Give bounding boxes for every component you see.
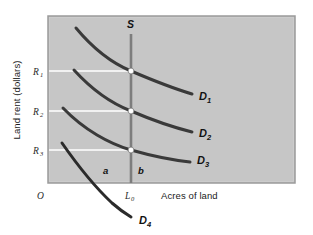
y-tick-label-r2: R bbox=[32, 107, 39, 117]
demand-curve-label-d2-subscript: 2 bbox=[206, 133, 212, 142]
y-axis-title: Land rent (dollars) bbox=[11, 61, 22, 140]
demand-curve-label-d4: D bbox=[139, 214, 147, 226]
area-label-a: a bbox=[103, 165, 108, 176]
y-tick-label-r2-subscript: 2 bbox=[40, 111, 44, 118]
x-tick-label-l0: L bbox=[124, 191, 130, 201]
y-tick-label-r1: R bbox=[32, 67, 39, 77]
demand-curve-label-d4-subscript: 4 bbox=[146, 220, 152, 229]
equilibrium-point-e3 bbox=[128, 147, 134, 153]
demand-curve-label-d3: D bbox=[197, 154, 205, 166]
area-label-b: b bbox=[138, 165, 144, 176]
y-tick-label-r1-subscript: 1 bbox=[40, 71, 43, 78]
chart-svg: S D 1 D 2 D 3 D 4 a b R 1 R 2 R 3 O bbox=[0, 0, 313, 235]
origin-label: O bbox=[37, 191, 44, 201]
y-axis-tick-labels-group: R 1 R 2 R 3 bbox=[32, 67, 44, 157]
x-axis-title: Acres of land bbox=[161, 190, 218, 201]
demand-curve-label-d1-subscript: 1 bbox=[207, 96, 211, 105]
y-tick-label-r3-subscript: 3 bbox=[39, 150, 44, 157]
land-rent-chart-figure: S D 1 D 2 D 3 D 4 a b R 1 R 2 R 3 O bbox=[0, 0, 313, 235]
supply-curve-label: S bbox=[127, 18, 134, 30]
y-tick-label-r3: R bbox=[32, 146, 39, 156]
equilibrium-point-e2 bbox=[128, 108, 134, 114]
x-tick-label-l0-subscript: 0 bbox=[131, 195, 135, 202]
equilibrium-point-e1 bbox=[128, 68, 134, 74]
demand-curve-label-d1: D bbox=[199, 90, 207, 102]
demand-curve-label-d2: D bbox=[199, 127, 207, 139]
